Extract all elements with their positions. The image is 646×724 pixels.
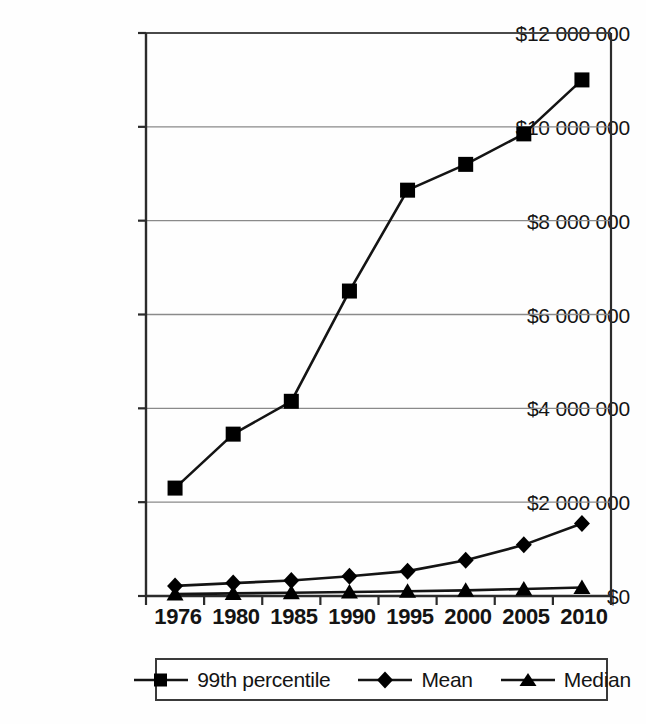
data-point-marker bbox=[226, 427, 241, 442]
gridlines bbox=[146, 33, 611, 502]
data-point-marker bbox=[458, 157, 473, 172]
legend-label-99th-percentile: 99th percentile bbox=[197, 669, 330, 690]
data-point-marker bbox=[516, 536, 532, 553]
data-point-marker bbox=[342, 284, 357, 299]
data-point-marker bbox=[516, 126, 531, 141]
legend-label-median: Median bbox=[564, 669, 631, 690]
square-marker-icon bbox=[132, 670, 190, 690]
data-point-marker bbox=[400, 183, 415, 198]
plot-area bbox=[0, 0, 646, 724]
chart-figure: $12 000 000 $10 000 000 $8 000 000 $6 00… bbox=[0, 0, 646, 724]
triangle-marker-icon bbox=[499, 670, 557, 690]
data-point-marker bbox=[168, 481, 183, 496]
x-axis-tick-marks bbox=[146, 596, 611, 605]
data-point-marker bbox=[458, 552, 474, 569]
data-point-marker bbox=[574, 72, 589, 87]
legend-entry-median: Median bbox=[499, 669, 631, 690]
data-series-layer bbox=[167, 72, 591, 600]
series-99th-percentile bbox=[168, 72, 590, 495]
data-point-marker bbox=[341, 568, 357, 585]
series-mean bbox=[167, 515, 590, 594]
legend-entry-99th-percentile: 99th percentile bbox=[132, 669, 330, 690]
data-point-marker bbox=[284, 394, 299, 409]
data-point-marker bbox=[400, 563, 416, 580]
legend-label-mean: Mean bbox=[421, 669, 472, 690]
chart-legend: 99th percentile Mean Median bbox=[155, 658, 608, 701]
diamond-marker-icon bbox=[356, 670, 414, 690]
data-point-marker bbox=[574, 515, 590, 532]
legend-entry-mean: Mean bbox=[356, 669, 472, 690]
